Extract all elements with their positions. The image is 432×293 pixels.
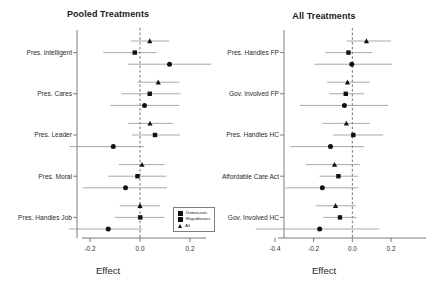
legend-item-label: Republicans	[186, 217, 210, 221]
y-axis-category-label: Gov. Involved FP	[229, 90, 280, 97]
data-point-circle	[142, 103, 147, 108]
panel-all-treatments: All Treatments -0.4-0.20.00.2Pres. Handl…	[216, 0, 432, 293]
triangle-marker-icon	[178, 224, 182, 228]
legend-item-all: All	[174, 223, 213, 229]
y-axis-category-label: Pres. Handles Job	[18, 214, 72, 221]
x-tick-label: 0.0	[348, 245, 357, 252]
data-point-square	[153, 133, 157, 137]
data-point-circle	[111, 144, 116, 149]
data-point-circle	[349, 62, 354, 67]
data-point-square	[336, 174, 340, 178]
y-axis-category-label: Pres. Cares	[37, 90, 73, 97]
data-point-square	[338, 215, 342, 219]
data-point-square	[133, 50, 137, 54]
data-point-circle	[167, 62, 172, 67]
circle-marker-icon	[178, 211, 183, 216]
legend-item-label: All	[185, 224, 190, 228]
data-point-square	[135, 174, 139, 178]
data-point-circle	[106, 227, 111, 232]
y-axis-category-label: Pres. Moral	[38, 173, 72, 180]
data-point-circle	[317, 227, 322, 232]
y-axis-category-label: Gov. Involved HC	[228, 214, 279, 221]
data-point-square	[138, 215, 142, 219]
data-point-circle	[320, 185, 325, 190]
x-tick-label: -0.2	[84, 245, 95, 252]
y-axis-category-label: Affordable Care Act	[222, 173, 279, 180]
data-point-circle	[328, 144, 333, 149]
data-point-square	[344, 92, 348, 96]
data-point-square	[346, 50, 350, 54]
square-marker-icon	[178, 217, 183, 222]
y-axis-category-label: Pres. Handles FP	[227, 49, 279, 56]
y-axis-category-label: Pres. Intelligent	[27, 49, 73, 57]
plot-area-left: -0.20.00.2Pres. IntelligentPres. CaresPr…	[0, 0, 216, 293]
plot-area-right: -0.4-0.20.00.2Pres. Handles FPGov. Invol…	[216, 0, 432, 293]
data-point-circle	[123, 185, 128, 190]
data-point-circle	[342, 103, 347, 108]
legend-item-label: Democrats	[186, 211, 207, 215]
y-axis-category-label: Pres. Handles HC	[226, 131, 279, 138]
data-point-square	[148, 92, 152, 96]
x-tick-label: -0.2	[308, 245, 319, 252]
x-tick-label: -0.4	[269, 245, 280, 252]
x-tick-label: 0.0	[136, 245, 145, 252]
legend: DemocratsRepublicansAll	[173, 207, 215, 232]
x-axis-label-left: Effect	[0, 265, 216, 276]
panel-pooled-treatments: Pooled Treatments -0.20.00.2Pres. Intell…	[0, 0, 216, 293]
x-axis-label-right: Effect	[216, 265, 432, 276]
x-tick-label: 0.2	[387, 245, 396, 252]
forest-plot-figure: Pooled Treatments -0.20.00.2Pres. Intell…	[0, 0, 432, 293]
x-tick-label: 0.2	[186, 245, 195, 252]
y-axis-category-label: Pres. Leader	[34, 131, 73, 138]
data-point-square	[351, 133, 355, 137]
